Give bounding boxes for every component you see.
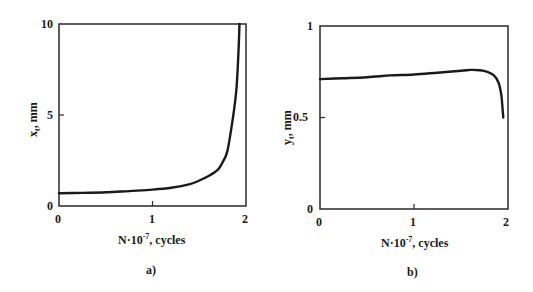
y-axis-label-unit: , mm (26, 102, 40, 128)
chart-panel-b: 1 0.5 0 0 1 2 N·10-7, cycles yt, mm b) (263, 0, 529, 292)
x-axis-label-suffix: , cycles (149, 233, 185, 247)
axes-frame-b (320, 26, 508, 209)
ytick-label: 0 (307, 203, 313, 215)
ytick-label: 5 (47, 109, 53, 121)
xtick-label: 0 (55, 213, 61, 225)
x-axis-label-main: N·10 (381, 236, 406, 250)
y-axis-label-sub: t (287, 136, 296, 139)
y-axis-label-sub: t (33, 128, 42, 131)
y-axis-label-unit: , mm (280, 110, 294, 136)
plot-area-a (0, 0, 266, 292)
x-axis-label: N·10-7, cycles (118, 232, 185, 248)
xtick-label: 1 (149, 213, 155, 225)
y-axis-label-var: y (280, 139, 294, 145)
xtick-label: 1 (410, 216, 416, 228)
data-line-a (59, 24, 240, 193)
x-axis-label-main: N·10 (118, 233, 143, 247)
xtick-label: 2 (503, 216, 509, 228)
data-line-b (320, 70, 503, 118)
y-axis-label-var: x (26, 131, 40, 137)
panel-caption-a: a) (146, 263, 156, 278)
y-axis-label: yt, mm (280, 110, 296, 145)
y-axis-label: xt, mm (26, 102, 42, 137)
axes-frame-a (59, 24, 246, 206)
panel-caption-b: b) (407, 265, 418, 280)
chart-panel-a: 10 5 0 0 1 2 N·10-7, cycles xt, mm a) (0, 0, 266, 292)
xtick-label: 0 (316, 216, 322, 228)
ytick-label: 10 (41, 18, 53, 30)
x-axis-label-suffix: , cycles (412, 236, 448, 250)
x-axis-label: N·10-7, cycles (381, 235, 448, 251)
ytick-label: 1 (307, 20, 313, 32)
ytick-label: 0 (47, 200, 53, 212)
xtick-label: 2 (242, 213, 248, 225)
